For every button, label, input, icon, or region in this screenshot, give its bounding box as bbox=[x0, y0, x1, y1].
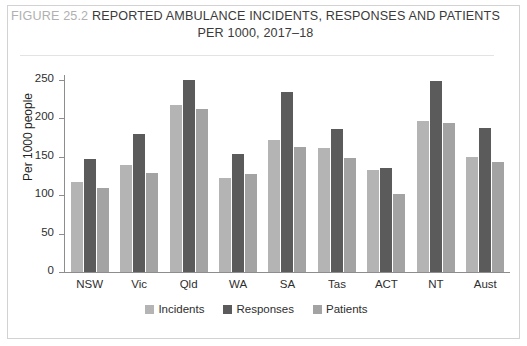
bar-group bbox=[362, 80, 411, 272]
bar-incidents bbox=[367, 170, 379, 272]
bar-incidents bbox=[170, 105, 182, 272]
bar-patients bbox=[492, 162, 504, 272]
bar-patients bbox=[294, 147, 306, 272]
y-axis-tick bbox=[59, 272, 65, 273]
bar-group bbox=[411, 80, 460, 272]
legend-swatch-responses bbox=[223, 305, 232, 314]
bar-group bbox=[164, 80, 213, 272]
bar-patients bbox=[344, 158, 356, 272]
bar-group bbox=[65, 80, 114, 272]
bar-patients bbox=[97, 188, 109, 272]
bar-incidents bbox=[318, 148, 330, 272]
bar-responses bbox=[331, 129, 343, 272]
x-axis-tick-label: NT bbox=[411, 278, 460, 290]
bar-incidents bbox=[120, 165, 132, 272]
bar-incidents bbox=[219, 178, 231, 272]
x-axis-tick-label: Tas bbox=[312, 278, 361, 290]
bar-responses bbox=[232, 154, 244, 272]
chart-legend: IncidentsResponsesPatients bbox=[0, 303, 513, 315]
x-axis-line bbox=[64, 272, 510, 273]
legend-swatch-incidents bbox=[145, 305, 154, 314]
bar-patients bbox=[196, 109, 208, 272]
bar-group bbox=[263, 80, 312, 272]
x-axis-tick-label: SA bbox=[263, 278, 312, 290]
x-axis-tick-label: Vic bbox=[114, 278, 163, 290]
x-axis-tick-label: ACT bbox=[362, 278, 411, 290]
y-axis-tick-label: 0 bbox=[10, 264, 54, 276]
x-axis-tick-label: NSW bbox=[65, 278, 114, 290]
y-axis-tick-label: 50 bbox=[10, 226, 54, 238]
bar-responses bbox=[183, 80, 195, 272]
bar-group bbox=[461, 80, 510, 272]
legend-item-responses[interactable]: Responses bbox=[223, 303, 294, 315]
y-axis-label: Per 1000 people bbox=[21, 62, 35, 212]
bar-incidents bbox=[417, 121, 429, 272]
bar-patients bbox=[393, 194, 405, 272]
legend-swatch-patients bbox=[313, 305, 322, 314]
x-axis-tick-label: Qld bbox=[164, 278, 213, 290]
bar-incidents bbox=[466, 157, 478, 272]
x-axis-tick-label: WA bbox=[213, 278, 262, 290]
bar-groups bbox=[65, 80, 510, 272]
bar-responses bbox=[479, 128, 491, 272]
legend-item-patients[interactable]: Patients bbox=[313, 303, 368, 315]
bar-patients bbox=[443, 123, 455, 272]
bar-responses bbox=[133, 134, 145, 272]
bar-responses bbox=[84, 159, 96, 272]
legend-label: Incidents bbox=[158, 303, 204, 315]
bar-incidents bbox=[268, 140, 280, 272]
bar-responses bbox=[430, 81, 442, 272]
figure-container: FIGURE 25.2 REPORTED AMBULANCE INCIDENTS… bbox=[0, 0, 527, 346]
bar-patients bbox=[245, 174, 257, 272]
bar-group bbox=[312, 80, 361, 272]
legend-item-incidents[interactable]: Incidents bbox=[145, 303, 204, 315]
bar-incidents bbox=[71, 182, 83, 272]
bar-responses bbox=[281, 92, 293, 272]
bar-patients bbox=[146, 173, 158, 272]
bar-responses bbox=[380, 168, 392, 272]
bar-group bbox=[213, 80, 262, 272]
plot-area: 050100150200250 Per 1000 people NSWVicQl… bbox=[0, 0, 513, 334]
legend-label: Patients bbox=[326, 303, 368, 315]
x-axis-tick-label: Aust bbox=[461, 278, 510, 290]
legend-label: Responses bbox=[236, 303, 294, 315]
bar-group bbox=[114, 80, 163, 272]
